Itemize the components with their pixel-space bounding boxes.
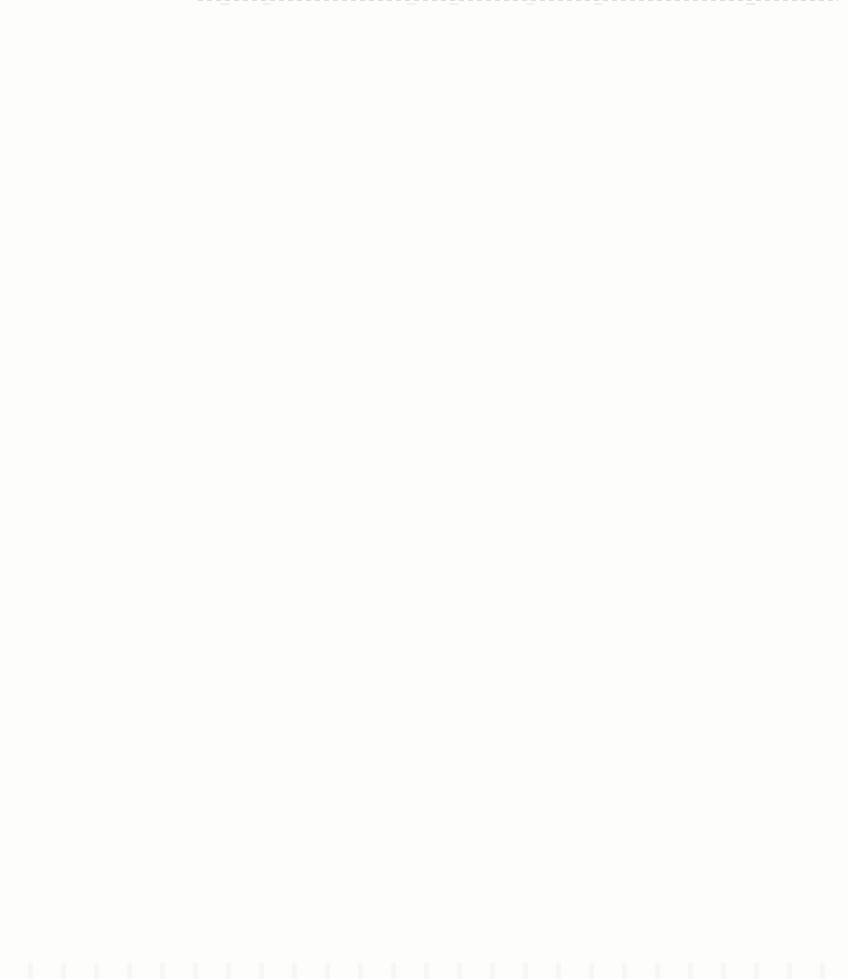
scan-artifact-top xyxy=(0,0,848,26)
patent-families-small-multiples-figure xyxy=(0,26,848,979)
x-axis-rule xyxy=(198,0,838,1)
scan-artifact-bottom xyxy=(0,963,848,979)
